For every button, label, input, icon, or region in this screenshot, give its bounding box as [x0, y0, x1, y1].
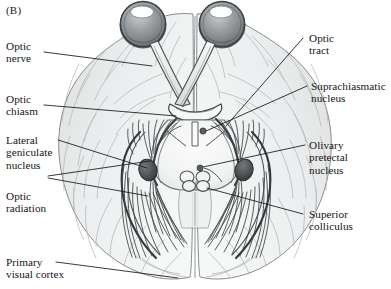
olivary-pretectal-nucleus-marker — [197, 165, 203, 171]
label-superior-colliculus: Superior colliculus — [309, 208, 353, 233]
label-lateral-geniculate-nucleus: Lateral geniculate nucleus — [6, 134, 52, 171]
left-eye — [120, 2, 167, 49]
label-primary-visual-cortex: Primary visual cortex — [6, 256, 64, 281]
right-eye — [199, 2, 246, 49]
label-optic-chiasm: Optic chiasm — [6, 93, 38, 118]
infundibular-stalk — [192, 122, 198, 146]
suprachiasmatic-nucleus-marker — [200, 128, 206, 134]
superior-colliculus-left — [183, 181, 196, 192]
label-optic-tract: Optic tract — [309, 32, 334, 57]
label-optic-radiation: Optic radiation — [6, 190, 46, 215]
label-olivary-pretectal-nucleus: Olivary pretectal nucleus — [309, 139, 348, 176]
label-optic-nerve: Optic nerve — [6, 40, 31, 65]
label-suprachiasmatic-nucleus: Suprachiasmatic nucleus — [311, 80, 386, 105]
figure-panel-b: (B) — [0, 0, 391, 289]
superior-colliculus-right — [197, 181, 210, 192]
